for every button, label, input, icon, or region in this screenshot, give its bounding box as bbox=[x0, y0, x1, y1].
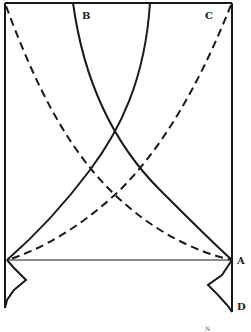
solid-curve-b-to-a bbox=[73, 3, 232, 260]
right-zigzag bbox=[208, 260, 232, 312]
solid-curve-top-to-left bbox=[7, 3, 150, 260]
left-zigzag bbox=[5, 260, 26, 308]
label-a: A bbox=[236, 255, 245, 266]
label-c: C bbox=[205, 10, 213, 21]
diagram-canvas: B C A D N bbox=[0, 0, 251, 332]
label-b: B bbox=[82, 10, 90, 21]
label-d: D bbox=[237, 301, 246, 312]
dashed-curve-topleft-to-a bbox=[6, 6, 232, 260]
dashed-curve-c-to-left bbox=[7, 5, 231, 260]
corner-mark: N bbox=[205, 325, 210, 332]
